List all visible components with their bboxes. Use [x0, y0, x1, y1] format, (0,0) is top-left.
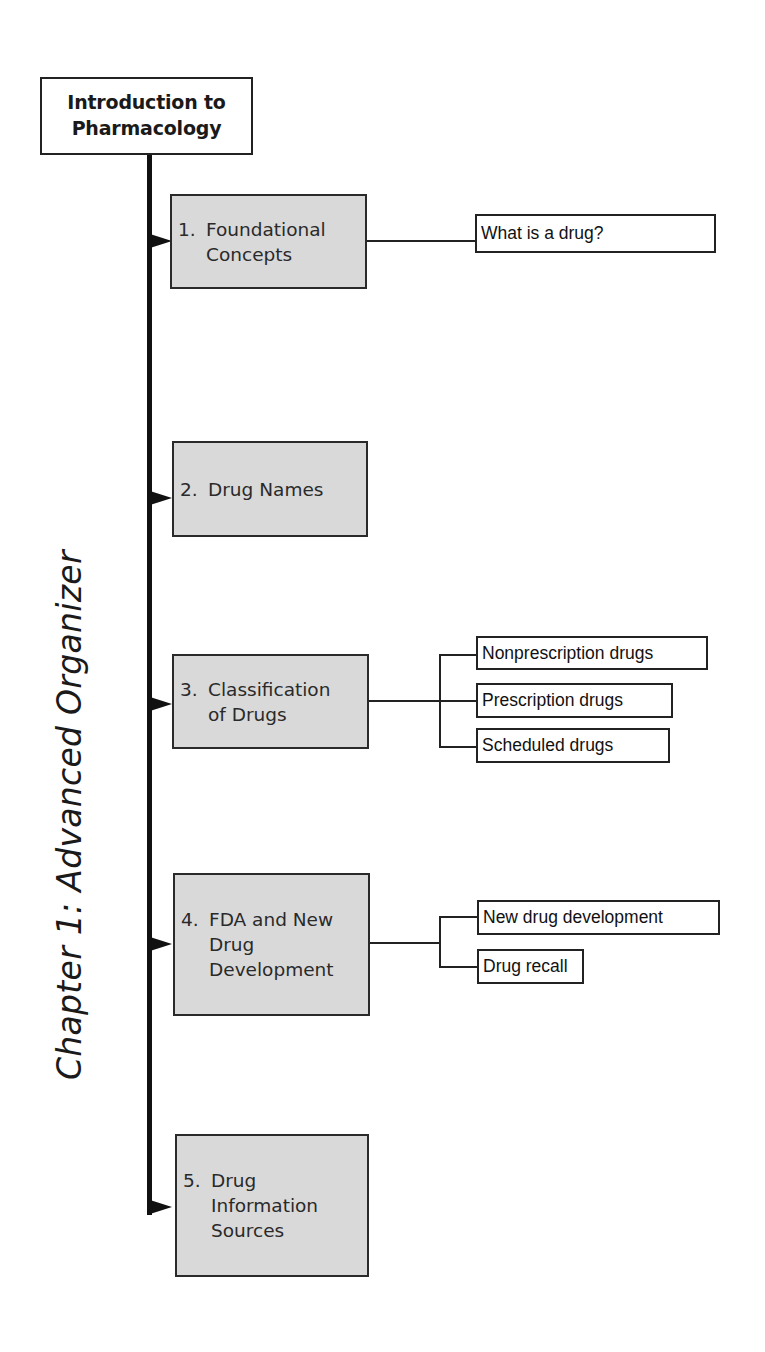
root-node: Introduction to Pharmacology [40, 77, 253, 155]
topic-5: 5.Drug Information Sources [175, 1134, 369, 1277]
topic-label: FDA and New [209, 907, 333, 932]
subtopic-drug-recall: Drug recall [477, 949, 584, 984]
topic-number: 4. [181, 907, 209, 932]
topic-label: of Drugs [208, 702, 287, 727]
subtopic-prescription-drugs: Prescription drugs [476, 683, 673, 718]
branch-line [439, 654, 441, 748]
topic-1: 1.Foundational Concepts [170, 194, 367, 289]
connector-line [370, 942, 440, 944]
topic-2: 2.Drug Names [172, 441, 368, 537]
branch-line [439, 916, 441, 968]
topic-4: 4.FDA and New Drug Development [173, 873, 370, 1016]
spine-line [147, 155, 152, 1215]
arrow-icon [150, 234, 172, 248]
side-title: Chapter 1: Advanced Organizer [50, 550, 89, 1080]
arrow-icon [150, 697, 172, 711]
arrow-icon [150, 491, 172, 505]
subtopic-what-is-a-drug: What is a drug? [475, 214, 716, 253]
connector-line [367, 240, 475, 242]
topic-label: Concepts [206, 242, 292, 267]
topic-label: Drug [209, 932, 254, 957]
topic-3: 3.Classification of Drugs [172, 654, 369, 749]
topic-number: 5. [183, 1168, 211, 1193]
arrow-icon [150, 937, 172, 951]
connector-line [439, 746, 476, 748]
topic-label: Drug Names [208, 477, 323, 502]
topic-label: Foundational [206, 217, 326, 242]
subtopic-scheduled-drugs: Scheduled drugs [476, 728, 670, 763]
topic-label: Drug [211, 1168, 256, 1193]
connector-line [439, 966, 477, 968]
topic-label: Sources [211, 1218, 284, 1243]
topic-number: 3. [180, 677, 208, 702]
subtopic-nonprescription-drugs: Nonprescription drugs [476, 636, 708, 670]
topic-number: 1. [178, 217, 206, 242]
topic-number: 2. [180, 477, 208, 502]
arrow-icon [150, 1200, 172, 1214]
connector-line [439, 916, 477, 918]
subtopic-new-drug-development: New drug development [477, 900, 720, 935]
topic-label: Information [211, 1193, 318, 1218]
root-line-2: Pharmacology [42, 115, 251, 141]
connector-line [439, 654, 476, 656]
topic-label: Classification [208, 677, 330, 702]
connector-line [369, 700, 476, 702]
topic-label: Development [209, 957, 334, 982]
root-line-1: Introduction to [42, 89, 251, 115]
